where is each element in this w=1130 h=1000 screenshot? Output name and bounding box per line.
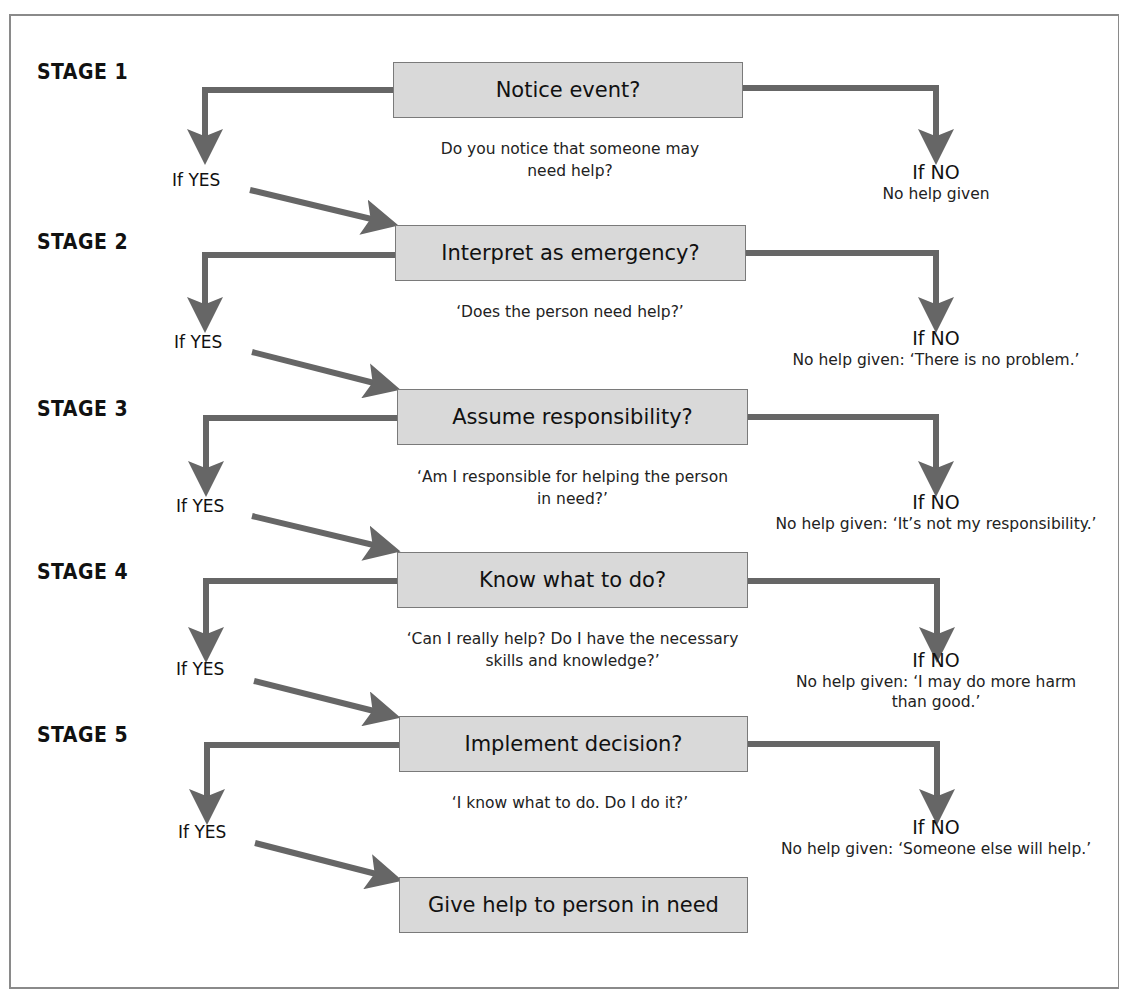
no-result: No help given: ‘Someone else will help.’ bbox=[776, 839, 1096, 859]
question-line: need help? bbox=[395, 160, 745, 182]
decision-box-notice-event: Notice event? bbox=[393, 62, 743, 118]
stage-3-label: STAGE 3 bbox=[37, 397, 128, 421]
final-box-give-help: Give help to person in need bbox=[399, 877, 748, 933]
question-line: ‘I know what to do. Do I do it?’ bbox=[395, 792, 745, 814]
decision-box-implement-decision: Implement decision? bbox=[399, 716, 748, 772]
yes-label-stage-4: If YES bbox=[176, 659, 224, 679]
question-stage-1: Do you notice that someone may need help… bbox=[395, 138, 745, 182]
yes-label-stage-1: If YES bbox=[172, 170, 220, 190]
question-line: ‘Does the person need help?’ bbox=[395, 301, 745, 323]
next-arrow-stage-3 bbox=[252, 516, 386, 548]
next-arrow-stage-5 bbox=[255, 843, 388, 877]
no-label: If NO bbox=[766, 490, 1106, 514]
next-arrow-stage-2 bbox=[252, 352, 386, 386]
yes-arrow-stage-1 bbox=[205, 90, 393, 150]
no-result: No help given: ‘There is no problem.’ bbox=[766, 350, 1106, 370]
no-outcome-stage-3: If NO No help given: ‘It’s not my respon… bbox=[766, 490, 1106, 534]
yes-arrow-stage-3 bbox=[206, 418, 397, 482]
yes-arrow-stage-4 bbox=[206, 581, 397, 648]
decision-box-know-what-to-do: Know what to do? bbox=[397, 552, 748, 608]
no-label: If NO bbox=[786, 160, 1086, 184]
stage-1-label: STAGE 1 bbox=[37, 60, 128, 84]
no-arrow-stage-1 bbox=[743, 88, 936, 150]
no-outcome-stage-1: If NO No help given bbox=[786, 160, 1086, 204]
question-stage-5: ‘I know what to do. Do I do it?’ bbox=[395, 792, 745, 814]
next-arrow-stage-4 bbox=[254, 681, 386, 714]
no-outcome-stage-5: If NO No help given: ‘Someone else will … bbox=[776, 815, 1096, 859]
yes-label-stage-2: If YES bbox=[174, 332, 222, 352]
no-label: If NO bbox=[766, 326, 1106, 350]
no-result: No help given: ‘I may do more harm bbox=[776, 672, 1096, 692]
question-line: skills and knowledge?’ bbox=[380, 650, 765, 672]
no-arrow-stage-2 bbox=[746, 253, 936, 318]
yes-arrow-stage-5 bbox=[207, 745, 399, 810]
no-arrow-stage-5 bbox=[748, 744, 937, 810]
stage-2-label: STAGE 2 bbox=[37, 230, 128, 254]
yes-arrow-stage-2 bbox=[205, 255, 395, 318]
yes-label-stage-5: If YES bbox=[178, 822, 226, 842]
question-line: ‘Can I really help? Do I have the necess… bbox=[380, 628, 765, 650]
no-label: If NO bbox=[776, 648, 1096, 672]
question-stage-2: ‘Does the person need help?’ bbox=[395, 301, 745, 323]
question-stage-3: ‘Am I responsible for helping the person… bbox=[380, 466, 765, 510]
decision-box-assume-responsibility: Assume responsibility? bbox=[397, 389, 748, 445]
no-label: If NO bbox=[776, 815, 1096, 839]
question-line: in need?’ bbox=[380, 488, 765, 510]
yes-label-stage-3: If YES bbox=[176, 496, 224, 516]
question-stage-4: ‘Can I really help? Do I have the necess… bbox=[380, 628, 765, 672]
no-outcome-stage-4: If NO No help given: ‘I may do more harm… bbox=[776, 648, 1096, 712]
question-line: Do you notice that someone may bbox=[395, 138, 745, 160]
no-arrow-stage-3 bbox=[748, 417, 936, 482]
stage-5-label: STAGE 5 bbox=[37, 723, 128, 747]
stage-4-label: STAGE 4 bbox=[37, 560, 128, 584]
no-arrow-stage-4 bbox=[748, 581, 937, 648]
no-result: than good.’ bbox=[776, 692, 1096, 712]
no-result: No help given bbox=[786, 184, 1086, 204]
decision-box-interpret-emergency: Interpret as emergency? bbox=[395, 225, 746, 281]
no-result: No help given: ‘It’s not my responsibili… bbox=[766, 514, 1106, 534]
question-line: ‘Am I responsible for helping the person bbox=[380, 466, 765, 488]
next-arrow-stage-1 bbox=[250, 190, 384, 222]
no-outcome-stage-2: If NO No help given: ‘There is no proble… bbox=[766, 326, 1106, 370]
